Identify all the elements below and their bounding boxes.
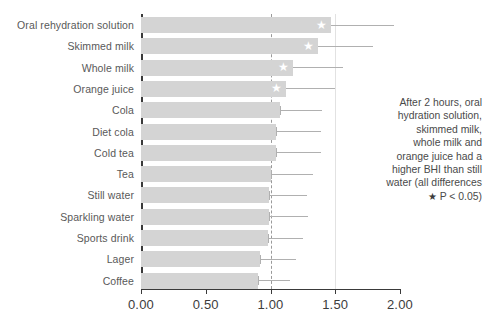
category-label: Whole milk <box>6 62 134 74</box>
category-label: Cola <box>6 104 134 116</box>
error-bar <box>269 195 307 196</box>
tick-label: 1.00 <box>241 297 301 312</box>
bar <box>141 102 280 118</box>
category-label: Cold tea <box>6 147 134 159</box>
error-bar-cap <box>258 276 259 285</box>
error-bar-cap <box>269 191 270 200</box>
error-bar-cap <box>271 170 272 179</box>
significance-star-icon: ★ <box>270 82 283 95</box>
bar-row <box>141 124 400 140</box>
bar-row <box>141 166 400 182</box>
annotation-star-icon: ★ <box>428 191 440 202</box>
bar <box>141 273 258 289</box>
error-bar-cap <box>280 106 281 115</box>
bar-row <box>141 102 400 118</box>
error-bar-cap <box>268 234 269 243</box>
bar-row <box>141 251 400 267</box>
annotation-line: After 2 hours, oral <box>378 96 482 109</box>
error-bar <box>280 110 323 111</box>
bar <box>141 81 286 97</box>
annotation-line: higher BHI than still <box>378 163 482 176</box>
error-bar <box>269 216 308 217</box>
error-bar <box>331 25 393 26</box>
beverage-hydration-index-chart: Oral rehydration solutionSkimmed milkWho… <box>0 0 484 329</box>
category-label: Lager <box>6 253 134 265</box>
error-bar-cap <box>276 127 277 136</box>
tick-mark <box>141 289 142 294</box>
tick-label: 0.00 <box>111 297 171 312</box>
tick-label: 1.50 <box>305 297 365 312</box>
annotation-line: water (all differences <box>378 176 482 189</box>
tick-mark <box>206 289 207 294</box>
bar-row <box>141 273 400 289</box>
error-bar <box>286 88 335 89</box>
bar <box>141 251 260 267</box>
bar <box>141 60 293 76</box>
bar <box>141 166 271 182</box>
bar-row: ★ <box>141 38 400 54</box>
annotation-line: orange juice had a <box>378 150 482 163</box>
error-bar-cap <box>276 148 277 157</box>
category-label: Tea <box>6 168 134 180</box>
bar <box>141 124 276 140</box>
significance-star-icon: ★ <box>302 40 315 53</box>
annotation-line: skimmed milk, <box>378 123 482 136</box>
error-bar-cap <box>269 212 270 221</box>
category-label: Orange juice <box>6 83 134 95</box>
tick-mark <box>335 289 336 294</box>
bar-row <box>141 230 400 246</box>
bar-row <box>141 145 400 161</box>
chart-annotation: After 2 hours, oralhydration solution,sk… <box>378 96 482 203</box>
tick-mark <box>271 289 272 294</box>
error-bar <box>260 259 296 260</box>
category-label: Diet cola <box>6 126 134 138</box>
category-label: Still water <box>6 189 134 201</box>
plot-area: ★★★★ <box>141 14 400 289</box>
error-bar <box>276 131 321 132</box>
bar <box>141 230 268 246</box>
error-bar <box>268 238 303 239</box>
bar-row: ★ <box>141 81 400 97</box>
error-bar <box>293 67 344 68</box>
annotation-pvalue-line: ★ P < 0.05) <box>378 190 482 203</box>
category-label: Coffee <box>6 275 134 287</box>
bar <box>141 145 276 161</box>
bar <box>141 209 269 225</box>
error-bar <box>258 280 290 281</box>
tick-label: 2.00 <box>370 297 430 312</box>
category-label: Sports drink <box>6 232 134 244</box>
tick-mark <box>400 289 401 294</box>
category-labels: Oral rehydration solutionSkimmed milkWho… <box>0 0 134 329</box>
significance-star-icon: ★ <box>277 61 290 74</box>
error-bar <box>318 46 372 47</box>
category-label: Skimmed milk <box>6 40 134 52</box>
bar <box>141 38 318 54</box>
category-label: Sparkling water <box>6 211 134 223</box>
bar-row <box>141 209 400 225</box>
bar-row <box>141 187 400 203</box>
bar <box>141 17 331 33</box>
category-label: Oral rehydration solution <box>6 19 134 31</box>
bar-row: ★ <box>141 60 400 76</box>
annotation-line: whole milk and <box>378 136 482 149</box>
significance-star-icon: ★ <box>315 19 328 32</box>
bar-row: ★ <box>141 17 400 33</box>
tick-label: 0.50 <box>176 297 236 312</box>
error-bar <box>276 152 321 153</box>
annotation-line: hydration solution, <box>378 109 482 122</box>
error-bar <box>271 174 314 175</box>
bar <box>141 187 269 203</box>
error-bar-cap <box>260 255 261 264</box>
